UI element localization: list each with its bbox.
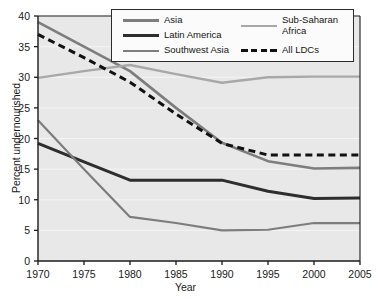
x-tick-label: 1975 [64, 268, 104, 280]
y-tick-label: 10 [4, 194, 30, 206]
x-tick-label: 1980 [110, 268, 150, 280]
y-tick-label: 20 [4, 133, 30, 145]
legend-swatch-sub-saharan-africa [241, 20, 277, 31]
legend-swatch-asia [123, 15, 159, 26]
y-tick-label: 30 [4, 71, 30, 83]
legend-swatch-all-ldcs [241, 45, 277, 56]
y-tick-label: 15 [4, 163, 30, 175]
legend-item-label: Sub-Saharan Africa [282, 15, 338, 36]
legend-item-label: Southwest Asia [164, 45, 229, 56]
y-tick-label: 40 [4, 10, 30, 22]
x-tick-label: 1995 [248, 268, 288, 280]
legend-item-all-ldcs[interactable]: All LDCs [241, 45, 319, 56]
legend-item-label: Latin America [164, 30, 222, 41]
legend-item-latin-america[interactable]: Latin America [123, 30, 222, 41]
x-tick-label: 1990 [202, 268, 242, 280]
legend-swatch-southwest-asia [123, 45, 159, 56]
legend-item-label: Asia [164, 15, 182, 26]
x-tick-label: 2005 [340, 268, 376, 280]
legend-item-label: All LDCs [282, 45, 319, 56]
legend-item-sub-saharan-africa[interactable]: Sub-Saharan Africa [241, 15, 338, 36]
x-tick-label: 1970 [18, 268, 58, 280]
y-tick-label: 25 [4, 102, 30, 114]
legend-item-asia[interactable]: Asia [123, 15, 182, 26]
x-tick-label: 2000 [294, 268, 334, 280]
legend-swatch-latin-america [123, 30, 159, 41]
y-tick-label: 5 [4, 224, 30, 236]
legend-item-southwest-asia[interactable]: Southwest Asia [123, 45, 229, 56]
y-tick-label: 0 [4, 255, 30, 267]
chart-legend: AsiaLatin AmericaSouthwest Asia Sub-Saha… [111, 9, 354, 62]
y-tick-label: 35 [4, 41, 30, 53]
x-tick-label: 1985 [156, 268, 196, 280]
